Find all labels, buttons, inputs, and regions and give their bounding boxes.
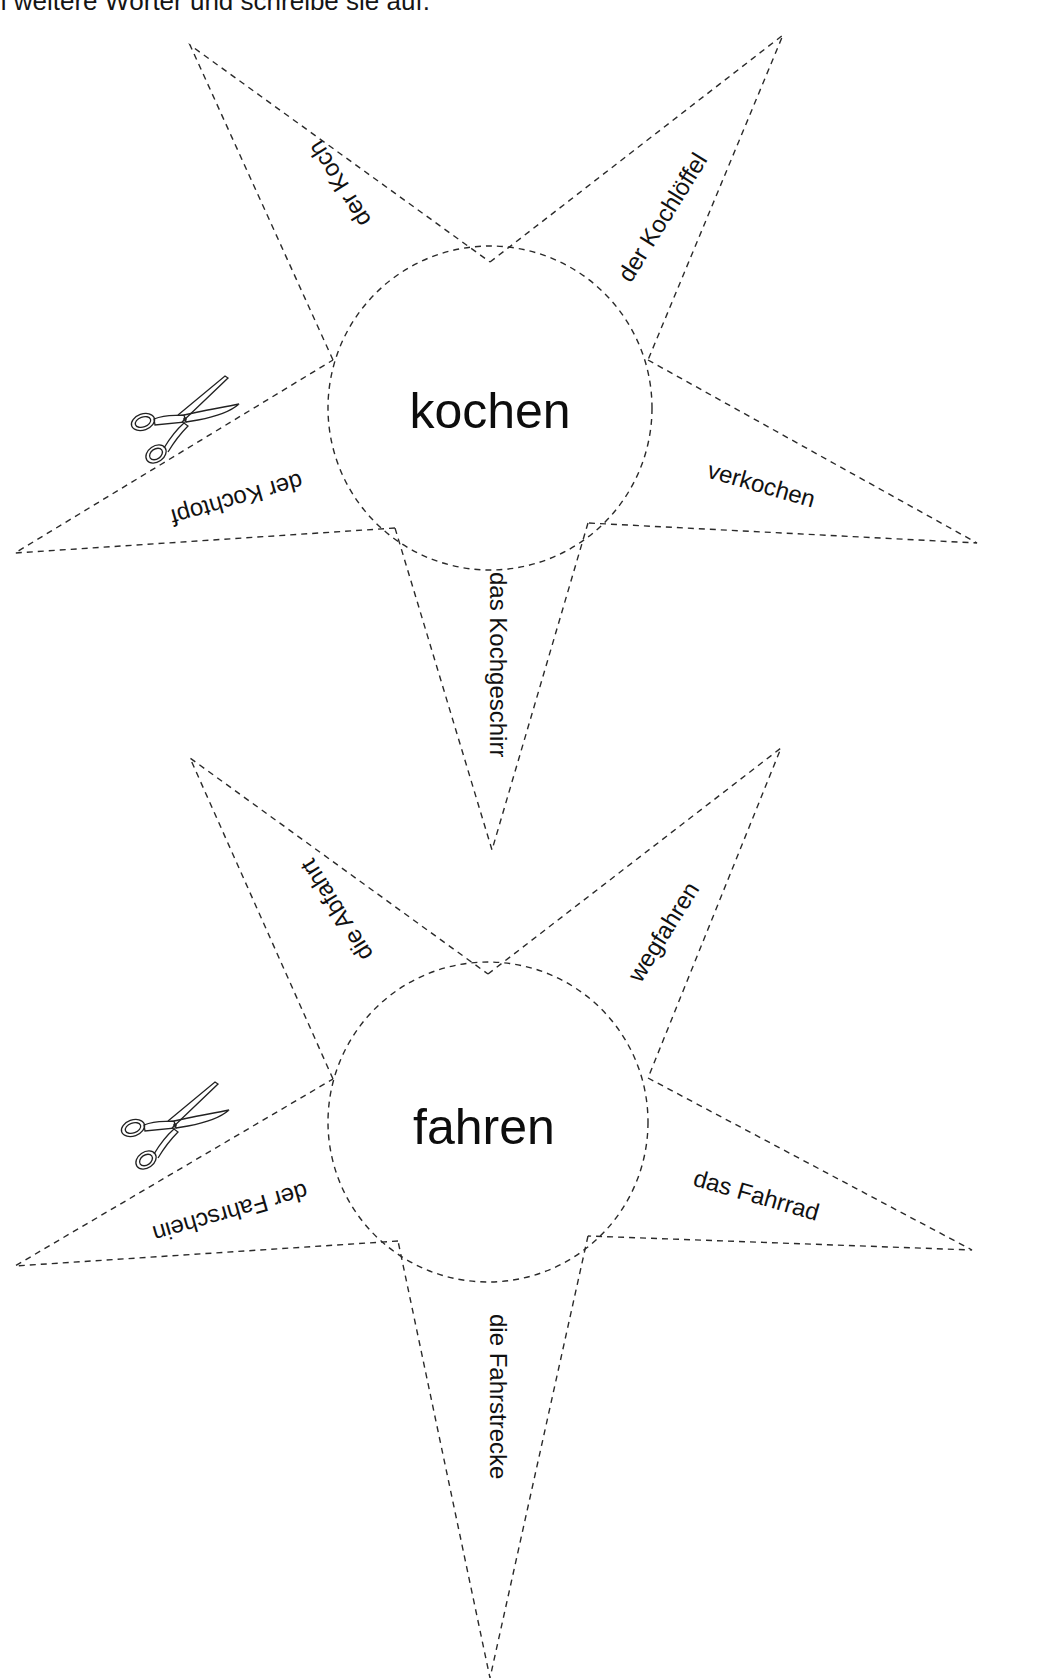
- word-star-fahren: fahren die Abfahrt wegfahren das Fahrrad…: [0, 716, 1057, 1596]
- ray-word-bottom: die Fahrstrecke: [484, 1314, 512, 1479]
- ray-outline-right: [588, 360, 977, 543]
- scissors-icon: [116, 1080, 236, 1170]
- center-word: fahren: [413, 1099, 555, 1155]
- scissors-icon: [126, 374, 246, 464]
- ray-outline-right: [588, 1078, 972, 1250]
- center-word: kochen: [409, 383, 570, 439]
- ray-outline-top-right: [490, 35, 783, 360]
- ray-outline-top-right: [488, 748, 781, 1078]
